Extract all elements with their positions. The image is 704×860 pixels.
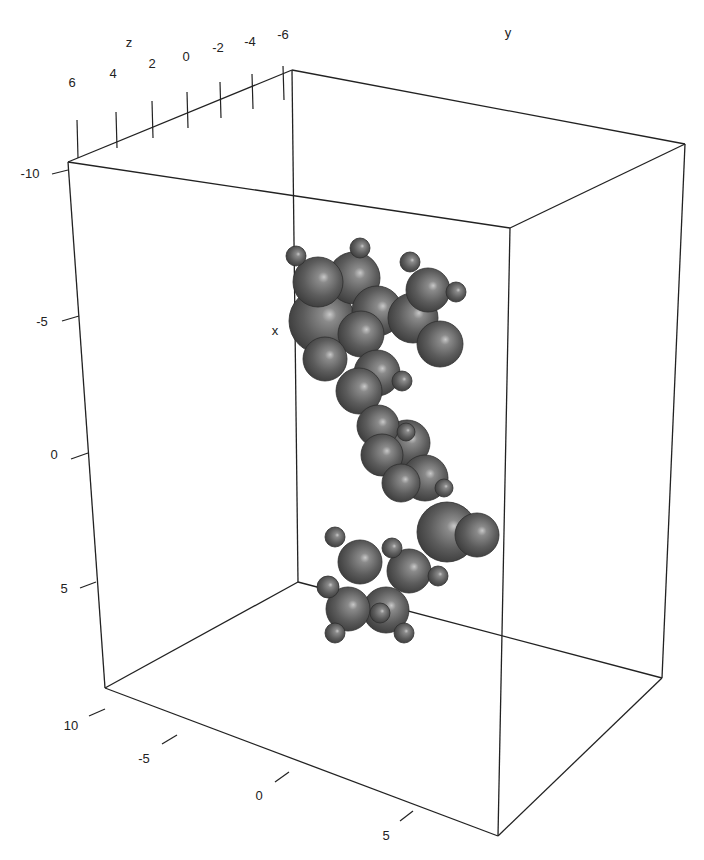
x-tick-label: 10 xyxy=(64,718,78,733)
atom-sphere xyxy=(435,479,453,497)
x-tick-label: 5 xyxy=(60,581,67,596)
z-tick-label: 4 xyxy=(109,66,116,81)
atom-sphere xyxy=(428,566,448,586)
atom-sphere xyxy=(317,576,339,598)
atom-sphere xyxy=(406,268,450,312)
z-tick-label: -2 xyxy=(212,40,224,55)
atom-sphere xyxy=(394,623,414,643)
atom-sphere xyxy=(382,464,420,502)
y-axis-tick-labels: -5 0 5 xyxy=(138,751,389,843)
z-tick-label: -4 xyxy=(244,34,256,49)
x-tick-label: 0 xyxy=(50,447,57,462)
atom-sphere xyxy=(397,423,415,441)
atom-sphere xyxy=(325,527,345,547)
atom-sphere xyxy=(455,513,499,557)
atom-sphere xyxy=(286,246,306,266)
atom-sphere xyxy=(446,282,466,302)
z-tick-label: 0 xyxy=(182,49,189,64)
atom-sphere xyxy=(417,321,463,367)
3d-molecule-plot: 6 4 2 0 -2 -4 -6 z -10 -5 0 5 10 x -5 0 … xyxy=(0,0,704,860)
atom-sphere xyxy=(382,538,402,558)
z-axis-tick-labels: 6 4 2 0 -2 -4 -6 xyxy=(68,27,288,90)
z-axis-ticks xyxy=(77,66,284,158)
y-axis-label: y xyxy=(505,25,512,40)
z-tick-label: -6 xyxy=(277,27,289,42)
y-tick-label: 0 xyxy=(255,788,262,803)
atom-sphere xyxy=(338,540,382,584)
y-tick-label: -5 xyxy=(138,751,150,766)
x-axis-ticks xyxy=(52,170,105,716)
atom-sphere xyxy=(392,371,412,391)
x-tick-label: -5 xyxy=(36,314,48,329)
atom-sphere xyxy=(400,252,420,272)
x-axis-tick-labels: -10 -5 0 5 10 xyxy=(21,166,79,733)
y-tick-label: 5 xyxy=(382,828,389,843)
y-axis-ticks xyxy=(162,735,413,821)
z-tick-label: 2 xyxy=(148,56,155,71)
atom-sphere xyxy=(325,623,345,643)
atom-sphere xyxy=(350,238,370,258)
atom-sphere xyxy=(370,603,390,623)
atom-sphere xyxy=(303,337,347,381)
z-axis-label: z xyxy=(126,35,133,50)
z-tick-label: 6 xyxy=(68,75,75,90)
molecule-atoms xyxy=(286,238,499,643)
x-axis-label: x xyxy=(272,323,279,338)
x-tick-label: -10 xyxy=(21,166,40,181)
bounding-box-front xyxy=(68,144,685,836)
